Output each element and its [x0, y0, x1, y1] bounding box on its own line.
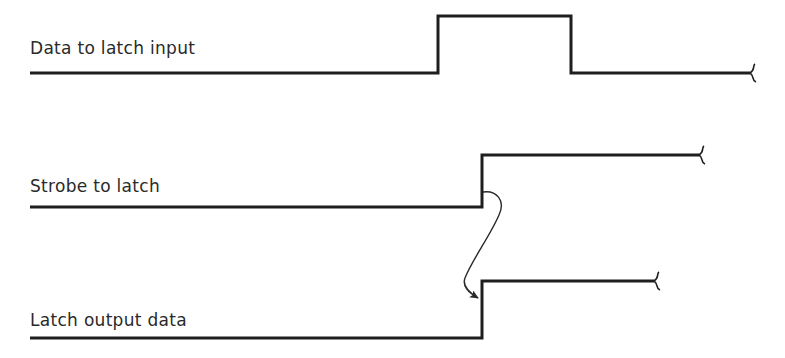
break-squiggle-icon: [654, 272, 660, 290]
waveform-strobe-to-latch: [30, 146, 705, 207]
break-squiggle-icon: [699, 146, 705, 164]
waveform-data-to-latch-input: [30, 16, 756, 82]
break-squiggle-icon: [750, 64, 756, 82]
timing-diagram-canvas: [0, 0, 785, 358]
waveform-latch-output-data: [30, 272, 660, 338]
